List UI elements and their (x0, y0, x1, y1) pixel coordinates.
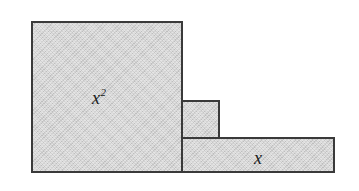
small-square-shape (181, 100, 220, 139)
figure-canvas: x2 x (0, 0, 359, 191)
label-x-squared-base: x (92, 88, 100, 108)
label-x: x (254, 149, 262, 167)
label-x-squared-exponent: 2 (101, 86, 107, 98)
label-x-squared: x2 (92, 89, 106, 107)
large-square-shape (31, 21, 183, 173)
